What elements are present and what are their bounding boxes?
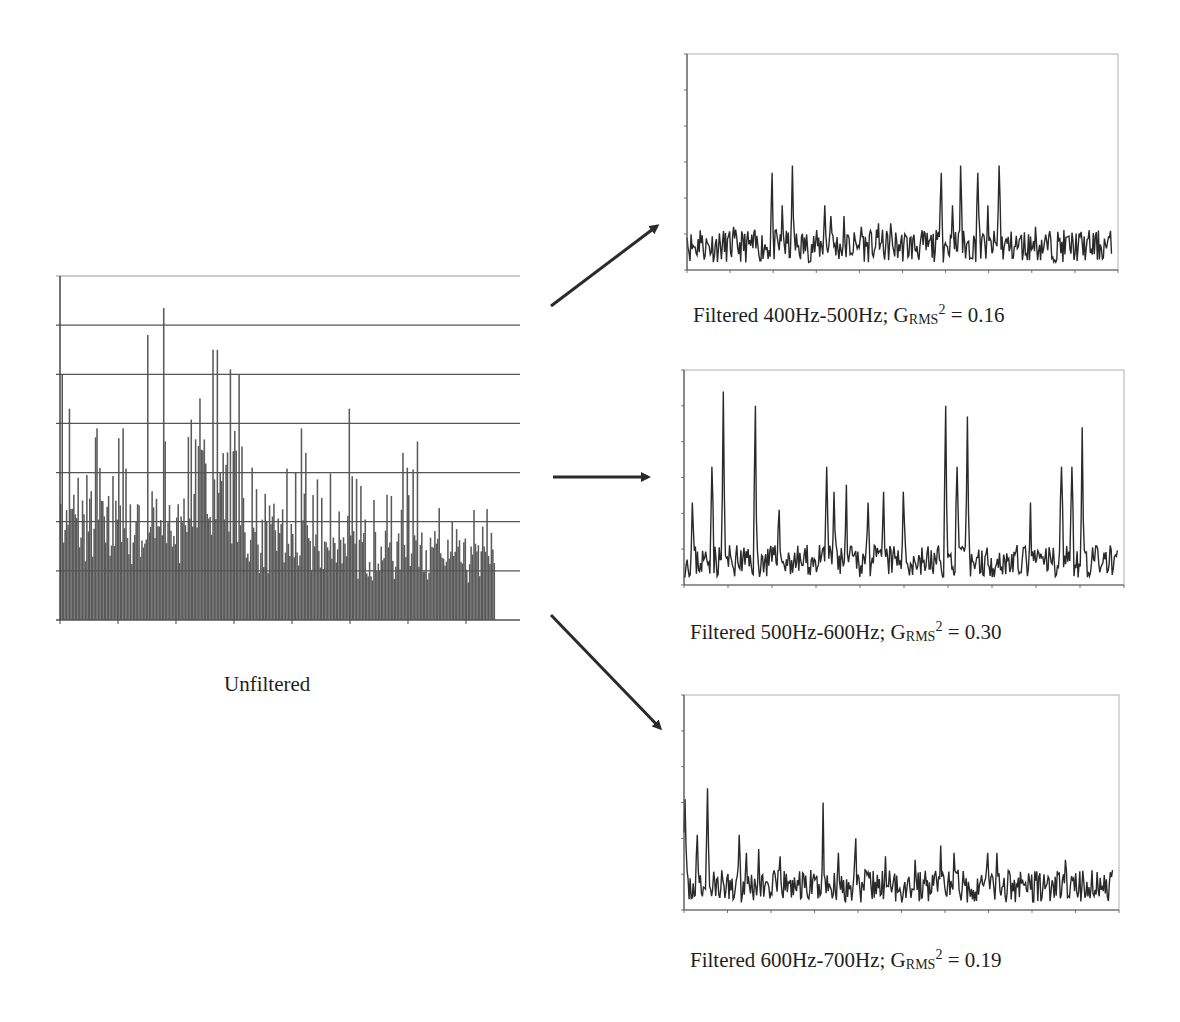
spectrum-line bbox=[684, 788, 1113, 902]
chart-unfiltered bbox=[50, 266, 520, 632]
arrow-to-400-500-icon bbox=[551, 226, 657, 306]
chart-filtered-400-500 bbox=[680, 48, 1125, 278]
spectrum-line bbox=[687, 166, 1112, 263]
chart-filtered-600-700 bbox=[677, 689, 1127, 919]
arrow-to-600-700-icon bbox=[551, 615, 660, 728]
unfiltered-bars bbox=[60, 308, 495, 620]
caption-filtered-600-700: Filtered 600Hz-700Hz; GRMS2 = 0.19 bbox=[690, 947, 1001, 973]
spectrum-line bbox=[684, 392, 1117, 578]
caption-filtered-400-500: Filtered 400Hz-500Hz; GRMS2 = 0.16 bbox=[693, 302, 1004, 328]
chart-filtered-500-600 bbox=[677, 364, 1132, 594]
caption-filtered-500-600: Filtered 500Hz-600Hz; GRMS2 = 0.30 bbox=[690, 619, 1001, 645]
caption-unfiltered: Unfiltered bbox=[224, 672, 310, 697]
